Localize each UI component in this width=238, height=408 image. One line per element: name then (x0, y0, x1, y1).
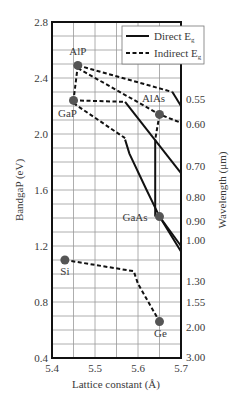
data-points: AlPGaPAlAsGaAsSiGe (58, 45, 167, 338)
bandgap-chart: AlPGaPAlAsGaAsSiGe 5.45.55.65.7 2.82.42.… (0, 0, 238, 408)
x-tick-label: 5.7 (174, 362, 188, 374)
y2-tick-label: 0.60 (186, 118, 206, 130)
data-point (73, 61, 82, 70)
x-tick-label: 5.5 (88, 362, 102, 374)
point-label: GaAs (122, 211, 147, 223)
series-line (172, 92, 181, 106)
data-point (60, 256, 69, 265)
y-axis-label: BandgaP (eV) (13, 159, 26, 222)
point-label: AlP (69, 45, 86, 57)
data-point (155, 317, 164, 326)
point-label: AlAs (142, 92, 165, 104)
y-tick-label: 1.2 (34, 240, 48, 252)
x-axis-ticks: 5.45.55.65.7 (45, 362, 188, 374)
legend-indirect-label: Indirect Eg (154, 47, 202, 61)
point-label: GaP (58, 107, 77, 119)
y2-tick-label: 0.70 (186, 160, 206, 172)
data-point (69, 96, 78, 105)
point-label: Si (60, 265, 69, 277)
y2-tick-label: 1.30 (186, 275, 206, 287)
series-line (78, 68, 181, 123)
y2-tick-label: 0.90 (186, 215, 206, 227)
y-tick-label: 0.4 (34, 352, 48, 364)
data-point (155, 212, 164, 221)
y2-tick-label: 2.00 (186, 321, 206, 333)
series-line (65, 260, 160, 322)
y2-tick-label: 0.55 (186, 93, 206, 105)
y-tick-label: 0.8 (34, 296, 48, 308)
x-axis-label: Lattice constant (Å) (72, 378, 160, 391)
series-line (160, 217, 182, 246)
y2-axis-ticks: 0.550.600.700.800.901.001.301.552.003.00 (186, 93, 206, 363)
y-tick-label: 1.6 (34, 184, 48, 196)
series-line (74, 103, 126, 138)
point-label: Ge (154, 327, 167, 339)
y2-tick-label: 1.55 (186, 296, 206, 308)
data-point (155, 110, 164, 119)
y2-tick-label: 3.00 (186, 351, 206, 363)
legend: Direct Eg Indirect Eg (122, 26, 204, 64)
grid (52, 22, 181, 358)
series-line (74, 65, 78, 100)
y-tick-label: 2.0 (34, 128, 48, 140)
y2-tick-label: 0.80 (186, 191, 206, 203)
series-line (78, 65, 173, 92)
y-axis-ticks: 2.82.42.01.61.20.80.4 (34, 16, 48, 364)
y-tick-label: 2.4 (34, 72, 48, 84)
x-tick-label: 5.6 (131, 362, 145, 374)
y-tick-label: 2.8 (34, 16, 48, 28)
y2-axis-label: Wavelength (μm) (216, 151, 229, 228)
legend-direct-label: Direct Eg (154, 30, 195, 44)
series-line (74, 100, 126, 101)
y2-tick-label: 1.00 (186, 234, 206, 246)
